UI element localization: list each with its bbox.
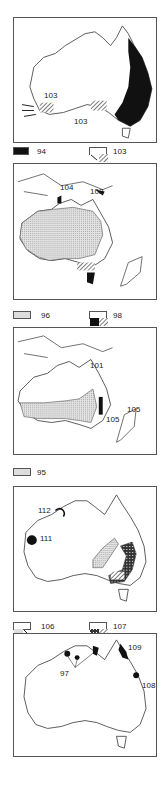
legend-label: 96 xyxy=(41,311,50,320)
australia-map xyxy=(14,487,156,611)
label-109: 109 xyxy=(128,644,141,652)
label-102: 102 xyxy=(90,188,103,196)
legend-panel-2: 96 98 xyxy=(13,311,157,321)
swatch-stipple-and-line xyxy=(13,311,31,319)
label-103-west: 103 xyxy=(44,92,57,100)
legend-label: 106 xyxy=(41,622,54,631)
australasia-map xyxy=(14,328,156,454)
legend-panel-1: 94 103 xyxy=(13,147,157,157)
label-108: 108 xyxy=(142,682,155,690)
legend-label: 94 xyxy=(37,147,46,156)
map-panel-1: 103 103 xyxy=(13,17,157,143)
swatch-arrow-and-hatch xyxy=(89,147,107,155)
legend-label: 98 xyxy=(113,311,122,320)
label-105-east: 105 xyxy=(106,416,119,424)
label-112: 112 xyxy=(38,507,51,515)
legend-label: 103 xyxy=(113,147,126,156)
swatch-stipple-and-hatch xyxy=(13,622,31,630)
map-panel-4: 112 111 xyxy=(13,486,157,612)
australasia-map xyxy=(14,164,156,299)
swatch-black-and-hatch xyxy=(89,311,107,319)
label-103-south: 103 xyxy=(74,118,87,126)
swatch-solid-black xyxy=(13,147,29,155)
map-panel-5: 97 109 108 xyxy=(13,633,157,757)
legend-panel-3: 95 xyxy=(13,468,157,478)
label-105-new-zealand: 105 xyxy=(127,406,140,414)
label-111: 111 xyxy=(40,535,52,543)
australia-map xyxy=(14,634,156,756)
label-97: 97 xyxy=(60,670,69,678)
label-101: 101 xyxy=(90,362,103,370)
map-panel-2: 104 102 xyxy=(13,163,157,300)
map-panel-3: 101 105 105 xyxy=(13,327,157,455)
legend-panel-4: 106 107 xyxy=(13,622,157,632)
swatch-stipple xyxy=(13,468,31,476)
swatch-crosshatch-and-hatch xyxy=(89,622,107,630)
legend-label: 107 xyxy=(113,622,126,631)
legend-label: 95 xyxy=(37,468,46,477)
label-104: 104 xyxy=(60,184,73,192)
